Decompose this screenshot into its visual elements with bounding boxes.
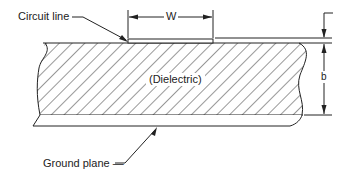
ground-plane-label: Ground plane — [43, 158, 124, 169]
ground-plane [33, 115, 302, 126]
thickness-leader [324, 13, 333, 37]
w-arrow-right-icon [203, 15, 212, 20]
dielectric-label: (Dielectric) [146, 73, 205, 86]
w-arrow-left-icon [129, 15, 138, 20]
circuit-line-arrow-icon [119, 35, 128, 42]
b-arrow-up-icon [322, 44, 327, 53]
microstrip-diagram [0, 0, 348, 180]
height-label: b [320, 71, 328, 83]
width-label: W [164, 11, 178, 22]
b-arrow-down-icon [322, 105, 327, 114]
circuit-line-label: Circuit line [18, 11, 69, 22]
circuit-line-leader [72, 17, 126, 40]
circuit-line-strip [128, 39, 213, 43]
ground-plane-arrow-icon [151, 127, 157, 136]
thickness-arrow-down-icon [322, 29, 327, 38]
